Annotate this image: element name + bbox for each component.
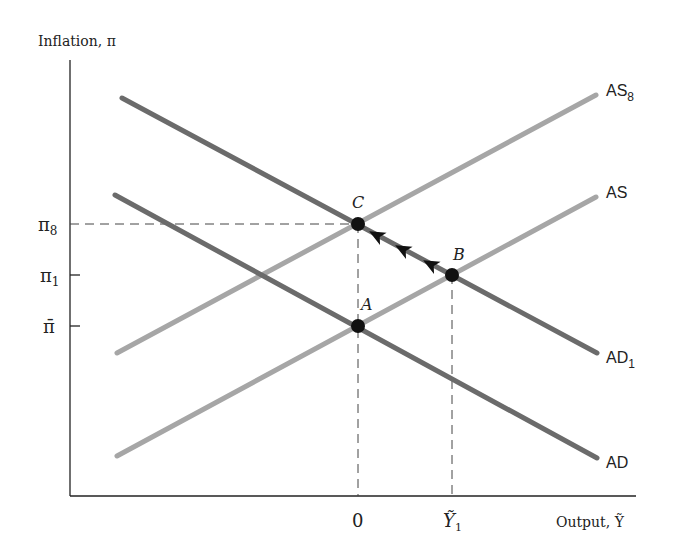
tick-label-zero: 0 <box>352 510 363 531</box>
ad-label: AD <box>606 454 628 471</box>
point-a <box>351 319 365 333</box>
point-c-label: C <box>352 193 364 212</box>
tick-label-pibar: π̄ <box>43 316 55 337</box>
ad1-label: AD1 <box>606 349 635 371</box>
x-axis-title: Output, Ỹ <box>556 513 625 530</box>
point-a-label: A <box>359 295 373 314</box>
tick-label-pi8: π8 <box>38 214 57 238</box>
tick-label-pi1: π1 <box>40 265 59 289</box>
point-b-label: B <box>452 245 465 264</box>
point-c <box>351 217 365 231</box>
point-b <box>445 268 459 282</box>
adjustment-arrows <box>366 225 441 274</box>
y-axis-title: Inflation, π <box>38 33 116 49</box>
as-ad-diagram: Inflation, π Output, Ỹ π8 π1 π̄ 0 Ỹ1 AS8… <box>0 0 677 556</box>
tick-label-y1: Ỹ1 <box>443 510 462 534</box>
as-label: AS <box>606 184 627 201</box>
as8-label: AS8 <box>606 82 634 104</box>
